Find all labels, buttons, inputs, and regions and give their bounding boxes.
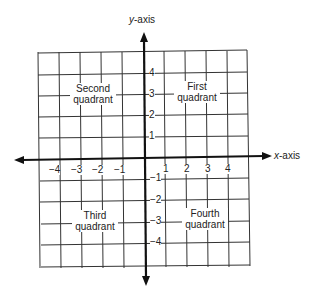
y-tick: −2	[150, 195, 161, 205]
x-axis-left-arrow-icon	[14, 156, 24, 164]
label-line: Second	[71, 83, 115, 94]
label-line: quadrant	[71, 94, 115, 105]
y-axis-title: y-axis	[129, 14, 155, 25]
y-tick: 3	[149, 89, 155, 99]
x-tick: −3	[71, 165, 82, 175]
label-line: quadrant	[175, 92, 219, 103]
label-line: quadrant	[183, 219, 227, 230]
label-line: First	[175, 81, 219, 92]
y-axis-down-arrow-icon	[142, 276, 150, 286]
second-quadrant-label: Second quadrant	[70, 83, 116, 105]
y-tick: 2	[149, 110, 155, 120]
x-tick: −4	[49, 165, 60, 175]
y-tick: −4	[150, 237, 161, 247]
y-tick: −3	[150, 216, 161, 226]
label-line: Third	[73, 210, 117, 221]
y-axis-line	[144, 40, 146, 278]
x-tick: 4	[225, 164, 231, 174]
x-tick: −1	[114, 165, 125, 175]
x-axis-suffix: -axis	[279, 150, 300, 161]
first-quadrant-label: First quadrant	[174, 81, 220, 103]
y-tick: 4	[149, 68, 155, 78]
x-tick: 1	[163, 164, 169, 174]
y-tick: 1	[149, 131, 155, 141]
y-axis-suffix: -axis	[134, 14, 155, 25]
coordinate-plane	[0, 0, 313, 297]
x-axis-right-arrow-icon	[262, 152, 272, 160]
fourth-quadrant-label: Fourth quadrant	[182, 208, 228, 230]
x-tick: −2	[92, 165, 103, 175]
x-tick: 3	[205, 164, 211, 174]
label-line: quadrant	[73, 221, 117, 232]
y-tick: −1	[150, 173, 161, 183]
axes	[14, 32, 272, 286]
y-axis-up-arrow-icon	[140, 32, 148, 42]
x-axis-title: x-axis	[274, 150, 300, 161]
label-line: Fourth	[183, 208, 227, 219]
third-quadrant-label: Third quadrant	[72, 210, 118, 232]
x-tick: 2	[184, 164, 190, 174]
